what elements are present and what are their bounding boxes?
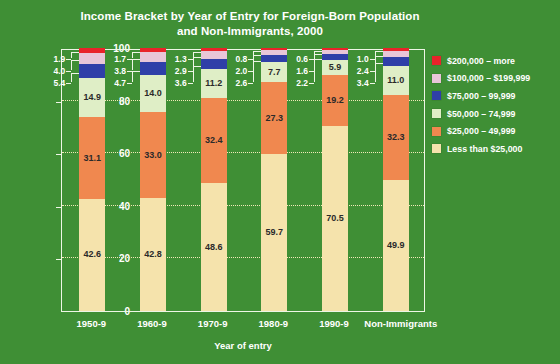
legend-label: $50,000 – 74,999 [447,109,516,119]
legend: $200,000 – more$100,000 – $199,999$75,00… [432,52,530,158]
legend-item[interactable]: $200,000 – more [432,52,530,70]
legend-label: $100,000 – $199,999 [447,73,530,83]
bar-Non-Immigrants[interactable]: 49.932.311.0 [383,48,409,311]
legend-swatch-icon [432,74,441,83]
segment-value-label: 32.3 [383,133,409,142]
callout-value-100k: 1.6 [274,66,308,76]
callout-value-200k: 1.9 [31,54,65,64]
chart-title-line-2: and Non-Immigrants, 2000 [177,25,323,37]
callout-value-100k: 2.0 [213,66,247,76]
legend-label: $25,000 – 49,999 [447,126,516,136]
leader-line [71,60,79,61]
legend-label: $75,000 – 99,999 [447,91,516,101]
leader-line [375,51,383,52]
bar-segment[interactable] [79,48,105,53]
callout-value-100k: 2.4 [335,66,369,76]
x-tick-label-Non-Immigrants: Non-Immigrants [364,318,425,329]
segment-value-label: 19.2 [322,96,348,105]
leader-line [375,63,376,82]
segment-value-label: 49.9 [383,241,409,250]
gridline-20 [62,257,424,258]
legend-label: Less than $25,000 [447,144,522,154]
legend-item[interactable]: $100,000 – $199,999 [432,70,530,88]
leader-line [248,83,253,84]
leader-line [370,83,375,84]
leader-line [132,71,140,72]
segment-value-label: 27.3 [261,114,287,123]
segment-value-label: 59.7 [261,228,287,237]
segment-value-label: 70.5 [322,214,348,223]
legend-item[interactable]: $75,000 – 99,999 [432,87,530,105]
leader-line [132,52,140,53]
callout-value-200k: 1.0 [335,54,369,64]
x-tick-label-1970-9: 1970-9 [182,318,243,329]
legend-label: $200,000 – more [447,56,515,66]
leader-line [71,60,72,70]
leader-line [71,73,72,83]
leader-line [193,52,201,53]
leader-line [314,51,322,52]
gridline-80 [62,100,424,101]
leader-line [375,63,383,64]
callout-value-75k: 3.6 [153,78,187,88]
legend-swatch-icon [432,127,441,136]
leader-line [132,59,133,70]
bar-segment[interactable] [383,51,409,57]
leader-line [253,61,261,62]
leader-line [132,59,140,60]
callout-value-100k: 3.8 [92,66,126,76]
bar-segment[interactable] [383,48,409,51]
callout-value-200k: 0.6 [274,54,308,64]
gridline-40 [62,205,424,206]
leader-line [314,59,315,83]
x-tick-label-1960-9: 1960-9 [122,318,183,329]
segment-value-label: 14.9 [79,93,105,102]
chart-title-line-1: Income Bracket by Year of Entry for Fore… [80,10,419,22]
x-axis-label: Year of entry [61,340,425,351]
x-tick-label-1990-9: 1990-9 [304,318,365,329]
legend-item[interactable]: Less than $25,000 [432,140,530,158]
segment-value-label: 32.4 [201,136,227,145]
leader-line [253,51,261,52]
segment-value-label: 33.0 [140,151,166,160]
leader-line [132,71,133,83]
callout-value-200k: 1.7 [92,54,126,64]
legend-item[interactable]: $25,000 – 49,999 [432,122,530,140]
legend-swatch-icon [432,91,441,100]
bar-segment[interactable] [201,48,227,51]
callout-value-75k: 3.4 [335,78,369,88]
legend-item[interactable]: $50,000 – 74,999 [432,105,530,123]
callout-value-75k: 5.4 [31,78,65,88]
segment-value-label: 48.6 [201,243,227,252]
gridline-60 [62,152,424,153]
leader-line [71,73,79,74]
bar-segment[interactable] [383,57,409,66]
legend-swatch-icon [432,109,441,118]
callout-value-75k: 4.7 [92,78,126,88]
segment-value-label: 11.0 [383,76,409,85]
callout-value-100k: 2.9 [153,66,187,76]
bar-segment[interactable] [322,48,348,50]
segment-value-label: 31.1 [79,154,105,163]
leader-line [66,83,71,84]
leader-line [193,57,201,58]
segment-value-label: 14.0 [140,89,166,98]
bar-segment[interactable] [261,48,287,50]
legend-swatch-icon [432,144,441,153]
segment-value-label: 42.6 [79,250,105,259]
chart-root: Income Bracket by Year of Entry for Fore… [0,0,560,364]
callout-value-75k: 2.2 [274,78,308,88]
x-tick-label-1980-9: 1980-9 [243,318,304,329]
bar-segment[interactable] [140,48,166,52]
leader-line [253,61,254,83]
callout-value-75k: 2.6 [213,78,247,88]
leader-line [375,56,383,57]
legend-swatch-icon [432,56,441,65]
plot-area: 42.631.114.942.833.014.048.632.411.259.7… [61,49,425,312]
chart-title: Income Bracket by Year of Entry for Fore… [60,9,440,39]
leader-line [314,54,322,55]
leader-line [193,66,201,67]
leader-line [71,52,79,53]
callout-value-200k: 0.8 [213,54,247,64]
leader-line [193,66,194,83]
